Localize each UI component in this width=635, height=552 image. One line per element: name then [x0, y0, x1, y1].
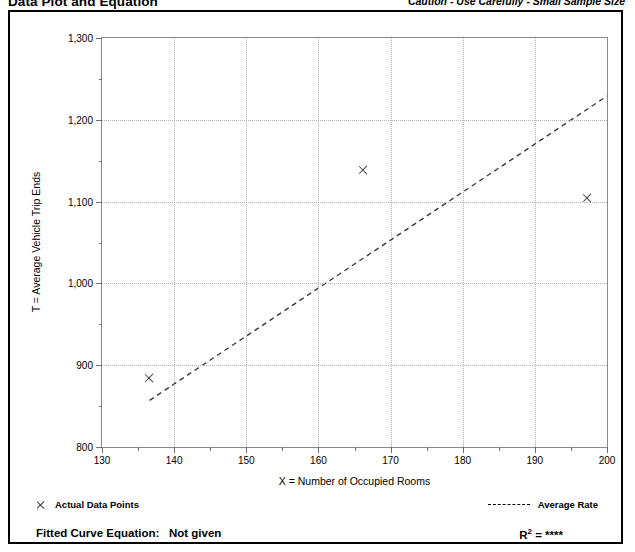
- caution-note: Caution - Use Carefully - Small Sample S…: [408, 0, 625, 7]
- dashed-line-icon: [488, 504, 530, 505]
- fitted-curve-equation: Fitted Curve Equation: Not given: [36, 527, 221, 539]
- x-axis-minor-tick: [499, 447, 500, 451]
- r-squared-label: R: [519, 529, 527, 541]
- x-axis-tick-label: 160: [310, 455, 327, 466]
- y-axis-tick-label: 1,200: [68, 114, 93, 125]
- y-axis-minor-tick: [99, 324, 103, 325]
- y-axis-tick-label: 1,100: [68, 196, 93, 207]
- x-axis-tick-label: 190: [527, 455, 544, 466]
- r-squared-exponent: 2: [528, 527, 532, 536]
- gridline-vertical: [391, 38, 392, 447]
- header-bar: Data Plot and Equation Caution - Use Car…: [0, 0, 635, 10]
- chart-area: T = Average Vehicle Trip Ends X = Number…: [10, 12, 620, 541]
- gridline-horizontal: [102, 365, 607, 366]
- y-axis-tick: [96, 38, 102, 39]
- x-axis-minor-tick: [282, 447, 283, 451]
- fitted-curve-equation-label: Fitted Curve Equation:: [36, 527, 159, 539]
- x-axis-minor-tick: [138, 447, 139, 451]
- x-axis-tick-label: 150: [238, 455, 255, 466]
- x-axis-tick: [246, 447, 247, 453]
- legend-item-actual-data-points: Actual Data Points: [36, 499, 139, 510]
- page-title: Data Plot and Equation: [8, 0, 158, 9]
- x-marker-icon: [36, 500, 46, 510]
- y-axis-tick: [96, 120, 102, 121]
- trendline-layer: [102, 38, 607, 447]
- y-axis-minor-tick: [99, 243, 103, 244]
- x-axis-tick-label: 200: [599, 455, 616, 466]
- x-axis-tick: [102, 447, 103, 453]
- x-axis-tick: [607, 447, 608, 453]
- y-axis-tick-label: 900: [76, 360, 93, 371]
- plot-frame: 8009001,0001,1001,2001,30013014015016017…: [101, 37, 608, 448]
- x-axis-minor-tick: [427, 447, 428, 451]
- data-point-marker: [144, 373, 155, 384]
- legend-label-actual-data-points: Actual Data Points: [55, 499, 139, 510]
- r-squared-stars: ****: [545, 529, 563, 541]
- fitted-curve-equation-value: Not given: [169, 527, 221, 539]
- gridline-vertical: [246, 38, 247, 447]
- legend-label-average-rate: Average Rate: [538, 499, 598, 510]
- legend: Actual Data Points Average Rate: [10, 499, 620, 519]
- gridline-horizontal: [102, 202, 607, 203]
- y-axis-title: T = Average Vehicle Trip Ends: [30, 172, 42, 313]
- gridline-horizontal: [102, 283, 607, 284]
- x-axis-minor-tick: [571, 447, 572, 451]
- x-axis-tick: [174, 447, 175, 453]
- y-axis-tick-label: 1,000: [68, 278, 93, 289]
- chart-frame: T = Average Vehicle Trip Ends X = Number…: [8, 10, 623, 544]
- x-axis-tick-label: 170: [382, 455, 399, 466]
- x-axis-tick-label: 130: [94, 455, 111, 466]
- y-axis-minor-tick: [99, 79, 103, 80]
- x-axis-minor-tick: [355, 447, 356, 451]
- x-axis-minor-tick: [210, 447, 211, 451]
- r-squared-value: R2 = ****: [519, 527, 563, 541]
- x-axis-tick: [391, 447, 392, 453]
- x-axis-title: X = Number of Occupied Rooms: [101, 475, 608, 487]
- y-axis-tick: [96, 365, 102, 366]
- gridline-horizontal: [102, 120, 607, 121]
- x-axis-tick-label: 180: [454, 455, 471, 466]
- y-axis-tick: [96, 283, 102, 284]
- x-axis-tick: [318, 447, 319, 453]
- gridline-vertical: [174, 38, 175, 447]
- gridline-vertical: [463, 38, 464, 447]
- y-axis-tick-label: 800: [76, 442, 93, 453]
- average-rate-trendline: [150, 96, 607, 400]
- x-axis-tick: [535, 447, 536, 453]
- data-point-marker: [358, 164, 369, 175]
- x-axis-tick-label: 140: [166, 455, 183, 466]
- gridline-vertical: [318, 38, 319, 447]
- legend-item-average-rate: Average Rate: [488, 499, 598, 510]
- data-point-marker: [581, 192, 592, 203]
- y-axis-tick-label: 1,300: [68, 33, 93, 44]
- x-axis-tick: [463, 447, 464, 453]
- y-axis-minor-tick: [99, 406, 103, 407]
- gridline-vertical: [535, 38, 536, 447]
- footer: Fitted Curve Equation: Not given R2 = **…: [10, 527, 620, 549]
- y-axis-minor-tick: [99, 161, 103, 162]
- r-squared-equals: =: [535, 529, 542, 541]
- y-axis-tick: [96, 202, 102, 203]
